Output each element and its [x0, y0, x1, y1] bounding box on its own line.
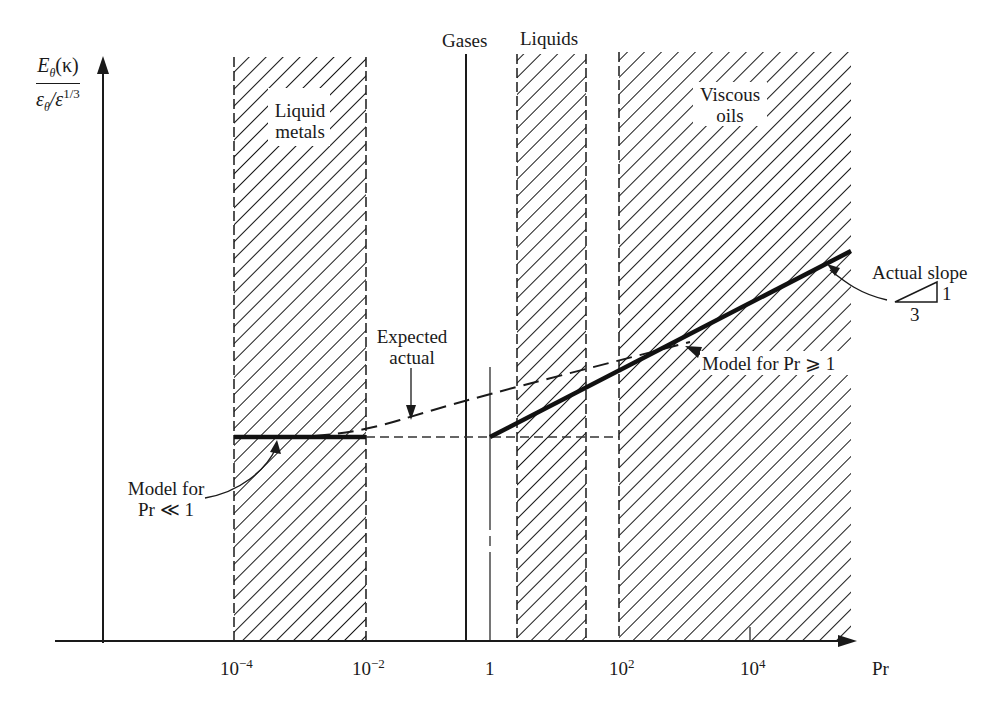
diagram-canvas: [0, 0, 1005, 703]
region-viscous-oils: [619, 52, 851, 641]
x-tick-label-1e-2: 10−2: [352, 658, 385, 680]
slope-triangle-icon: [895, 282, 937, 302]
x-tick-label-1e-4: 10−4: [220, 658, 253, 680]
y-axis-arrow-icon: [97, 56, 109, 74]
expected-actual-arrowhead-icon: [406, 405, 416, 420]
label-model-high-pr: Model for Pr ⩾ 1: [702, 353, 835, 374]
y-axis-label: Eθ(κ) εθ/ε1/3: [36, 54, 80, 115]
label-viscous-oils: Viscous oils: [695, 84, 765, 126]
region-liquids: [517, 54, 586, 641]
label-expected-actual: Expected actual: [372, 326, 452, 368]
x-tick-label-1e4: 104: [740, 658, 766, 680]
label-model-low-pr: Model for Pr ≪ 1: [124, 478, 208, 520]
x-tick-label-1: 1: [485, 658, 495, 680]
label-actual-slope: Actual slope: [872, 262, 968, 283]
label-slope-run: 3: [910, 304, 920, 325]
label-slope-rise: 1: [942, 283, 952, 304]
x-axis-label: Pr: [872, 658, 889, 680]
label-liquid-metals: Liquid metals: [270, 100, 330, 142]
x-tick-label-1e2: 102: [609, 658, 635, 680]
label-gases: Gases: [442, 30, 487, 51]
label-liquids: Liquids: [520, 28, 578, 49]
